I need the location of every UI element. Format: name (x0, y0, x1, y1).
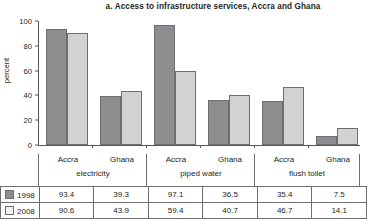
category-place-label: Ghana (201, 155, 259, 164)
x-tick-mark (308, 145, 309, 148)
table-cell: 97.1 (148, 187, 203, 203)
table-cell: 7.5 (312, 187, 367, 203)
data-table: 1998 93.4 39.3 97.1 36.5 35.4 7.5 2008 9… (0, 186, 367, 219)
bar-1998 (154, 25, 175, 145)
y-tick-label: 0 (6, 141, 32, 150)
x-tick-mark (254, 145, 255, 148)
chart-figure: a. Access to infrastructure services, Ac… (0, 0, 367, 220)
category-service-label: electricity (38, 169, 148, 178)
y-axis-ticks: 100 80 60 40 20 0 (0, 14, 38, 145)
table-cell: 43.9 (94, 203, 149, 219)
category-place-label: Accra (39, 155, 97, 164)
category-service-label: piped water (146, 169, 256, 178)
bar-1998 (316, 136, 337, 145)
category-place-label: Ghana (93, 155, 151, 164)
bar-2008 (229, 95, 250, 145)
category-place-label: Accra (147, 155, 205, 164)
table-cell: 39.3 (94, 187, 149, 203)
x-axis-line (38, 145, 360, 146)
table-cell: 59.4 (148, 203, 203, 219)
table-cell: 35.4 (257, 187, 312, 203)
y-tick-label: 100 (6, 17, 32, 26)
chart-title: a. Access to infrastructure services, Ac… (78, 2, 348, 12)
legend-item-1998: 1998 (1, 187, 40, 203)
category-label-band: Accra Ghana Accra Ghana Accra Ghana elec… (38, 154, 360, 186)
table-cell: 93.4 (39, 187, 94, 203)
legend-swatch-icon (5, 206, 14, 215)
bars-container (38, 21, 360, 145)
category-service-label: flush toilet (252, 169, 362, 178)
bar-1998 (262, 101, 283, 145)
table-row: 2008 90.6 43.9 59.4 40.7 46.7 14.1 (1, 203, 367, 219)
y-tick-label: 20 (6, 116, 32, 125)
table-row: 1998 93.4 39.3 97.1 36.5 35.4 7.5 (1, 187, 367, 203)
x-tick-mark (92, 145, 93, 148)
y-tick-label: 80 (6, 41, 32, 50)
category-place-label: Ghana (309, 155, 367, 164)
plot-area: percent 100 80 60 40 20 0 (0, 14, 367, 154)
bar-1998 (208, 100, 229, 145)
legend-swatch-icon (5, 190, 14, 199)
bar-2008 (337, 128, 358, 145)
bar-2008 (175, 71, 196, 145)
table-cell: 14.1 (312, 203, 367, 219)
bar-2008 (283, 87, 304, 145)
bar-2008 (67, 33, 88, 145)
table-cell: 46.7 (257, 203, 312, 219)
table-cell: 36.5 (203, 187, 258, 203)
y-tick-label: 40 (6, 91, 32, 100)
x-tick-mark (200, 145, 201, 148)
table-cell: 40.7 (203, 203, 258, 219)
series-label: 1998 (17, 191, 35, 200)
bar-2008 (121, 91, 142, 145)
y-tick-label: 60 (6, 66, 32, 75)
table-cell: 90.6 (39, 203, 94, 219)
category-place-label: Accra (255, 155, 313, 164)
bar-1998 (46, 29, 67, 145)
series-label: 2008 (17, 207, 35, 216)
legend-item-2008: 2008 (1, 203, 40, 219)
bar-1998 (100, 96, 121, 145)
x-tick-mark (146, 145, 147, 148)
